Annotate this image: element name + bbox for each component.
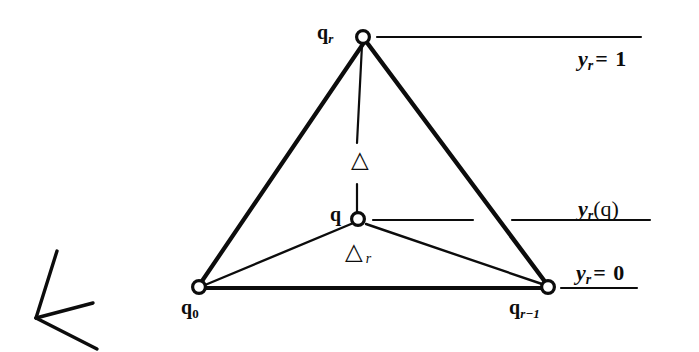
vertex-marker-base-left-vertex [193, 281, 206, 294]
vertex-label-base: q [509, 296, 520, 318]
pointer-mark-group [36, 251, 97, 349]
vertex-label-subscript: r−1 [520, 306, 539, 321]
vertex-marker-apex-vertex [357, 31, 370, 44]
hand-drawn-arrow-mark-stroke-1 [36, 303, 93, 318]
simplex-label-subscript: r [363, 251, 371, 266]
level-label-base: y [576, 260, 586, 285]
level-label-value: 1 [610, 46, 627, 71]
level-label-rest: (q) [593, 196, 619, 221]
simplex-edge-right [368, 44, 546, 283]
vertex-label-subscript: r [328, 31, 333, 46]
vertex-marker-base-right-vertex [542, 281, 555, 294]
level-line-top-label: yr= 1 [578, 48, 626, 73]
figure-canvas: qrqq0qr−1△△ryr= 1yr(q)yr= 0 [0, 0, 699, 352]
simplex-delta-r-label: △r [345, 240, 371, 266]
vertex-markers-group [193, 31, 555, 294]
triangle-icon: △ [351, 147, 369, 172]
vertex-label-base: q [181, 296, 192, 318]
vertex-label-base-left-vertex: q0 [181, 297, 199, 320]
apex-drop-upper-segment [357, 45, 362, 143]
vertex-marker-interior-vertex [352, 213, 365, 226]
level-label-operator: = [591, 260, 608, 285]
triangle-icon: △ [345, 239, 363, 264]
vertex-label-base: q [330, 203, 341, 225]
level-lines-group [373, 37, 650, 288]
vertex-label-interior-vertex: q [330, 204, 341, 224]
vertex-label-subscript: 0 [192, 306, 199, 321]
level-label-rest: = 1 [593, 46, 626, 71]
vertex-label-base-right-vertex: qr−1 [509, 297, 540, 320]
face-edge-q-to-qr-1 [366, 224, 542, 284]
simplex-delta-label: △ [351, 148, 369, 171]
level-label-base: y [578, 196, 588, 221]
level-line-bottom-label: yr= 0 [576, 262, 624, 287]
vertex-label-base: q [317, 21, 328, 43]
hand-drawn-arrow-mark-stroke-0 [36, 251, 57, 318]
vertex-label-apex-vertex: qr [317, 22, 333, 45]
level-line-middle-label: yr(q) [578, 198, 619, 223]
simplex-edges-group [200, 44, 546, 288]
level-label-value: 0 [608, 260, 625, 285]
hand-drawn-arrow-mark-stroke-2 [36, 318, 97, 349]
level-label-base: y [578, 46, 588, 71]
simplex-edge-left [200, 44, 363, 284]
face-edge-q-to-q0 [205, 224, 351, 285]
level-label-rest: = 0 [591, 260, 624, 285]
level-label-operator: = [593, 46, 610, 71]
